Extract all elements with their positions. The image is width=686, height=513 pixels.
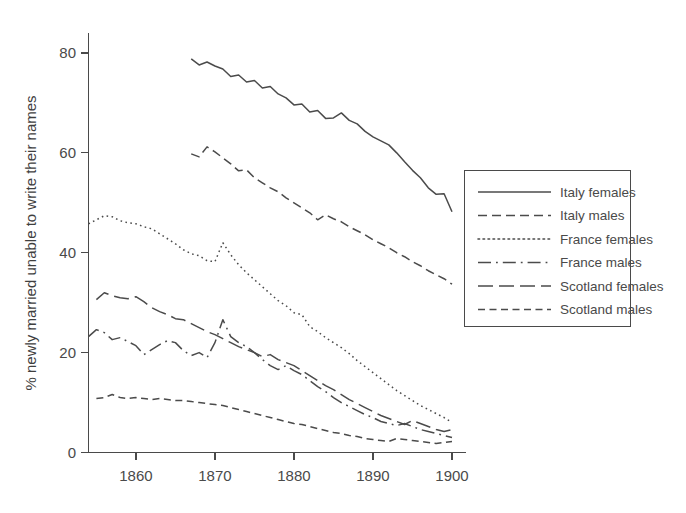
chart-figure: 020406080 % newly married unable to writ…	[0, 0, 686, 513]
series-line-italy-females	[191, 59, 452, 212]
legend-label: Scotland females	[560, 279, 664, 294]
y-tick-label: 0	[68, 444, 76, 461]
legend-label: Scotland males	[560, 302, 653, 317]
y-axis: 020406080 % newly married unable to writ…	[22, 33, 89, 461]
x-tick-group: 18601870188018901900	[119, 453, 468, 485]
x-tick-label: 1890	[356, 467, 389, 484]
data-series-group	[89, 59, 453, 444]
x-tick-label: 1900	[435, 467, 468, 484]
x-tick-label: 1860	[119, 467, 152, 484]
legend-label: France males	[560, 255, 642, 270]
x-tick-label: 1880	[277, 467, 310, 484]
legend-label: Italy females	[560, 185, 636, 200]
y-tick-group: 020406080	[59, 44, 88, 461]
y-tick-label: 80	[59, 44, 76, 61]
legend-label: Italy males	[560, 208, 625, 223]
legend-label: France females	[560, 232, 653, 247]
y-tick-label: 40	[59, 244, 76, 261]
series-line-france-females	[89, 216, 453, 423]
y-axis-title: % newly married unable to write their na…	[22, 95, 39, 390]
series-line-italy-males	[191, 147, 452, 284]
x-tick-label: 1870	[198, 467, 231, 484]
literacy-line-chart: 020406080 % newly married unable to writ…	[0, 0, 686, 513]
chart-legend: Italy femalesItaly malesFrance femalesFr…	[465, 171, 664, 327]
x-axis: 18601870188018901900	[89, 453, 469, 485]
series-line-scotland-females	[96, 293, 452, 432]
series-line-france-males	[89, 320, 453, 438]
y-tick-label: 60	[59, 144, 76, 161]
y-tick-label: 20	[59, 344, 76, 361]
series-line-scotland-males	[96, 395, 452, 444]
